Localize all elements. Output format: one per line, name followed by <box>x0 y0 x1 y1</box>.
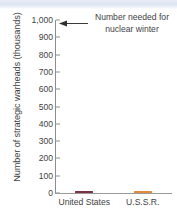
bars-layer <box>55 20 172 193</box>
bar-u-s-s-r[interactable] <box>134 191 152 194</box>
x-axis-line <box>55 193 172 194</box>
y-tick-label: 800 <box>13 50 53 60</box>
x-tick-label: U.S.S.R. <box>98 197 177 207</box>
y-tick-label: 500 <box>13 102 53 112</box>
annotation-label: Number needed for nuclear winter <box>88 12 176 35</box>
y-tick-label: 100 <box>13 171 53 181</box>
y-tick-label: 400 <box>13 119 53 129</box>
y-tick-label: 300 <box>13 136 53 146</box>
y-tick-label: 600 <box>13 84 53 94</box>
bar-united-states[interactable] <box>75 191 93 194</box>
y-tick-label: 200 <box>13 153 53 163</box>
annotation-arrow-icon <box>59 20 88 27</box>
y-tick-label: 1,000 <box>13 15 53 25</box>
annotation-line-1: Number needed for <box>88 12 176 24</box>
y-tick-label: 700 <box>13 67 53 77</box>
bar-chart: Number of strategic warheads (thousands)… <box>0 0 177 222</box>
y-tick-label: 900 <box>13 32 53 42</box>
annotation-line-2: nuclear winter <box>88 24 176 36</box>
